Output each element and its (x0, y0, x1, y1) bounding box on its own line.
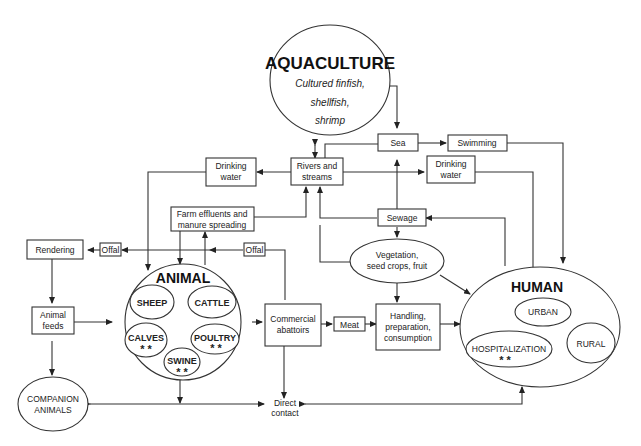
abattoirs-node: Commercial abattoirs (265, 304, 321, 346)
svg-text:Offal: Offal (102, 245, 120, 255)
offal-left-node: Offal (100, 243, 121, 256)
svg-text:* *: * * (176, 366, 188, 378)
svg-text:Direct: Direct (274, 398, 297, 408)
rural-node: RURAL (567, 323, 615, 363)
svg-text:SHEEP: SHEEP (137, 298, 168, 308)
rivers-streams-node: Rivers and streams (291, 158, 343, 185)
drinking-water-left-node: Drinking water (206, 158, 256, 186)
svg-text:Vegetation,: Vegetation, (376, 250, 419, 260)
calves-node: CALVES * * (125, 323, 167, 357)
svg-text:feeds: feeds (43, 321, 64, 331)
vegetation-node: Vegetation, seed crops, fruit (350, 239, 444, 283)
aquaculture-title: AQUACULTURE (265, 54, 395, 73)
cattle-node: CATTLE (188, 286, 236, 318)
svg-text:water: water (440, 170, 462, 180)
svg-text:Commercial: Commercial (270, 314, 315, 324)
swimming-node: Swimming (448, 135, 507, 151)
meat-node: Meat (334, 317, 365, 331)
svg-text:seed crops, fruit: seed crops, fruit (367, 261, 428, 271)
svg-text:shellfish,: shellfish, (311, 97, 350, 108)
urban-node: URBAN (515, 298, 571, 326)
sea-node: Sea (378, 134, 418, 151)
svg-text:SWINE: SWINE (167, 356, 197, 366)
animal-node: ANIMAL SHEEP CATTLE CALVES * * POULTRY *… (125, 264, 241, 380)
farm-effluents-node: Farm effluents and manure spreading (171, 207, 254, 231)
svg-text:HOSPITALIZATION: HOSPITALIZATION (472, 344, 546, 354)
svg-text:abattoirs: abattoirs (277, 325, 310, 335)
sewage-node: Sewage (378, 209, 426, 226)
svg-text:water: water (220, 172, 242, 182)
drinking-water-right-node: Drinking water (427, 156, 475, 183)
svg-text:contact: contact (271, 408, 299, 418)
svg-text:manure spreading: manure spreading (178, 220, 247, 230)
svg-text:* *: * * (210, 342, 222, 354)
rendering-node: Rendering (27, 240, 83, 259)
svg-text:Handling,: Handling, (390, 311, 426, 321)
svg-text:Sewage: Sewage (387, 213, 418, 223)
hospitalization-node: HOSPITALIZATION * * (466, 331, 552, 367)
svg-text:Animal: Animal (40, 310, 66, 320)
svg-text:consumption: consumption (384, 333, 432, 343)
svg-text:RURAL: RURAL (577, 339, 606, 349)
animal-title: ANIMAL (156, 270, 211, 286)
svg-text:* *: * * (499, 354, 511, 366)
human-title: HUMAN (511, 279, 563, 295)
sheep-node: SHEEP (130, 285, 174, 319)
companion-animals-node: COMPANION ANIMALS (18, 377, 88, 431)
svg-text:ANIMALS: ANIMALS (34, 405, 72, 415)
svg-text:URBAN: URBAN (528, 307, 558, 317)
svg-text:streams: streams (302, 172, 332, 182)
animal-feeds-node: Animal feeds (32, 307, 74, 334)
handling-node: Handling, preparation, consumption (376, 304, 440, 350)
svg-text:Meat: Meat (340, 320, 360, 330)
svg-text:Offal: Offal (246, 245, 264, 255)
svg-text:Cultured finfish,: Cultured finfish, (295, 78, 364, 89)
svg-text:Drinking: Drinking (435, 159, 466, 169)
transmission-diagram: AQUACULTURE Cultured finfish, shellfish,… (0, 0, 641, 446)
poultry-node: POULTRY * * (191, 324, 239, 354)
human-node: HUMAN URBAN RURAL HOSPITALIZATION * * (460, 267, 620, 387)
svg-text:CATTLE: CATTLE (195, 298, 230, 308)
svg-text:preparation,: preparation, (385, 322, 430, 332)
svg-text:Farm effluents and: Farm effluents and (177, 209, 248, 219)
svg-text:COMPANION: COMPANION (27, 394, 79, 404)
svg-text:Rendering: Rendering (35, 245, 74, 255)
svg-text:shrimp: shrimp (315, 115, 345, 126)
svg-text:CALVES: CALVES (128, 333, 164, 343)
svg-text:* *: * * (140, 343, 152, 355)
svg-text:Rivers and: Rivers and (297, 161, 338, 171)
direct-contact-node: Direct contact (271, 398, 299, 418)
svg-text:Sea: Sea (390, 138, 405, 148)
svg-text:Swimming: Swimming (457, 138, 496, 148)
aquaculture-node: AQUACULTURE Cultured finfish, shellfish,… (265, 25, 395, 135)
svg-text:Drinking: Drinking (215, 161, 246, 171)
offal-right-node: Offal (244, 243, 265, 256)
